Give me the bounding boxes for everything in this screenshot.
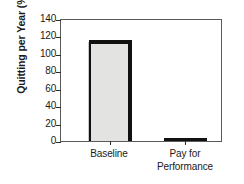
bar-baseline[interactable] xyxy=(89,40,132,141)
x-label-pay-for-performance-line2: Performance xyxy=(142,160,228,173)
y-tick-label-80: 80 xyxy=(26,66,56,76)
x-tick-mark-baseline xyxy=(110,141,111,145)
y-tick-label-100: 100 xyxy=(26,49,56,59)
x-label-baseline-line1: Baseline xyxy=(90,148,128,159)
y-tick-label-40: 40 xyxy=(26,101,56,111)
x-label-baseline: Baseline xyxy=(66,147,152,160)
plot-area xyxy=(61,20,221,141)
y-tick-label-0: 0 xyxy=(26,136,56,146)
y-tick-label-140: 140 xyxy=(26,14,56,24)
y-tick-label-60: 60 xyxy=(26,84,56,94)
x-label-pay-for-performance: Pay for Performance xyxy=(142,147,228,173)
bar-chart: Quitting per Year (%) 140 120 100 80 60 … xyxy=(0,0,244,184)
x-axis-category-labels: Baseline Pay for Performance xyxy=(60,147,222,183)
y-axis-tick-labels: 140 120 100 80 60 40 20 0 xyxy=(26,14,56,146)
y-tick-mark-0 xyxy=(56,142,61,143)
x-tick-mark-pay-for-performance xyxy=(185,141,186,145)
y-tick-label-120: 120 xyxy=(26,31,56,41)
y-tick-label-20: 20 xyxy=(26,119,56,129)
plot-frame xyxy=(60,19,222,142)
x-label-pay-for-performance-line1: Pay for xyxy=(170,148,201,159)
